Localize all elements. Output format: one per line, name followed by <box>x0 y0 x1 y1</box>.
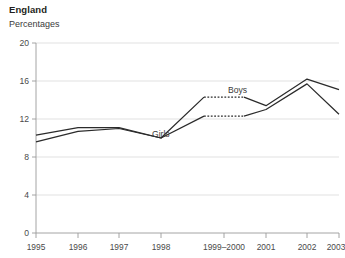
y-tick-label-20: 20 <box>19 38 29 48</box>
y-tick-label-0: 0 <box>24 228 29 238</box>
x-tick-label-2001: 2001 <box>257 242 276 252</box>
series-annotation-girls: Girls <box>152 129 170 139</box>
y-tick-label-12: 12 <box>19 114 29 124</box>
x-tick-label-2003: 2003 <box>327 242 345 252</box>
y-tick-label-16: 16 <box>19 76 29 86</box>
x-tick-label-2002: 2002 <box>298 242 317 252</box>
x-axis: 1995 1996 1997 1998 1999–2000 2001 2002 … <box>27 233 345 252</box>
series-layer <box>36 79 339 142</box>
x-tick-label-1999-2000: 1999–2000 <box>203 242 245 252</box>
y-tick-label-8: 8 <box>24 152 29 162</box>
x-tick-label-1997: 1997 <box>110 242 129 252</box>
line-chart-plot: 20 16 12 8 4 0 1995 1996 1997 1998 1999–… <box>0 0 345 258</box>
chart-figure: England Percentages 20 16 12 8 4 0 <box>0 0 345 258</box>
y-tick-label-4: 4 <box>24 190 29 200</box>
x-tick-label-1995: 1995 <box>27 242 46 252</box>
series-boys-solid-early <box>36 97 204 138</box>
series-annotation-boys: Boys <box>228 85 247 95</box>
y-gridlines <box>36 43 339 195</box>
series-boys-solid-late <box>244 79 339 106</box>
series-girls-solid-early <box>36 116 204 142</box>
x-tick-label-1996: 1996 <box>69 242 88 252</box>
y-axis: 20 16 12 8 4 0 <box>19 38 36 238</box>
x-tick-label-1998: 1998 <box>152 242 171 252</box>
